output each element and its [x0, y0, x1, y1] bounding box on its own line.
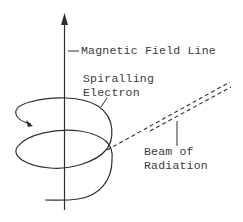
electron-label-line1: Spiralling [83, 71, 154, 86]
rotation-arrow-icon [26, 120, 33, 127]
field-line-label: Magnetic Field Line [81, 43, 216, 58]
beam-label-line1: Beam of [144, 144, 194, 159]
arrow-up-icon [61, 13, 68, 25]
electron-label-line2: Electron [83, 85, 140, 100]
diagram-graphics [0, 0, 243, 222]
magnetic-field-line [61, 13, 68, 210]
beam-label-line2: Radiation [144, 158, 208, 173]
synchrotron-diagram: Magnetic Field Line Spiralling Electron … [0, 0, 243, 222]
